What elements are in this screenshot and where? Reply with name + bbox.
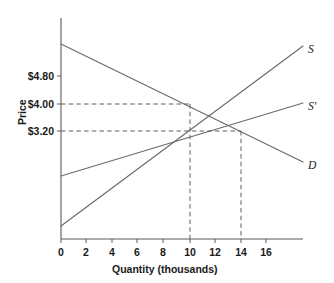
x-tick-label-4: 4: [103, 246, 121, 258]
x-tick-label-10: 10: [181, 246, 199, 258]
curve-label-d: D: [308, 159, 316, 171]
demand-curve: [61, 44, 303, 162]
supply-shifted-curve: [61, 103, 303, 176]
y-tick-label-400: $4.00: [0, 98, 54, 110]
x-tick-label-16: 16: [257, 246, 275, 258]
x-tick-label-2: 2: [77, 246, 95, 258]
supply-demand-chart: Price $4.80 $4.00 $3.20 0 2 4 6 8 10 12 …: [0, 0, 334, 283]
y-tick-label-320: $3.20: [0, 125, 54, 137]
x-tick-label-8: 8: [154, 246, 172, 258]
y-tick-label-480: $4.80: [0, 70, 54, 82]
x-tick-label-0: 0: [52, 246, 70, 258]
x-tick-label-12: 12: [206, 246, 224, 258]
x-tick-label-6: 6: [128, 246, 146, 258]
chart-canvas: [0, 0, 334, 283]
x-axis-title: Quantity (thousands): [112, 263, 218, 275]
x-tick-label-14: 14: [232, 246, 250, 258]
curve-label-s: S: [308, 43, 314, 55]
supply-curve: [61, 46, 303, 226]
curve-label-s-prime: S′: [308, 100, 316, 112]
